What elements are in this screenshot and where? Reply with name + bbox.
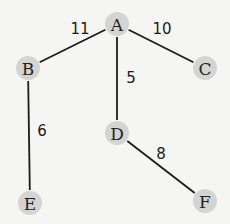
edge-b-e [28, 81, 30, 190]
edge-weight-a-c: 10 [152, 20, 171, 38]
graph-svg: 1110568 ABCDEF [0, 0, 230, 224]
edge-weight-a-d: 5 [126, 69, 136, 87]
edges-group [28, 30, 195, 193]
node-d: D [105, 121, 129, 145]
node-a: A [105, 12, 129, 36]
node-label: A [110, 15, 124, 35]
edge-weight-a-b: 11 [70, 20, 89, 38]
node-f: F [193, 189, 217, 213]
tree-diagram: 1110568 ABCDEF [0, 0, 230, 224]
edge-weight-b-e: 6 [37, 122, 47, 140]
edge-weight-d-f: 8 [156, 145, 166, 163]
node-e: E [18, 191, 42, 215]
node-b: B [16, 56, 40, 80]
node-label: E [24, 194, 36, 214]
node-label: C [198, 59, 211, 79]
node-c: C [193, 56, 217, 80]
node-label: D [110, 124, 124, 144]
node-label: F [199, 192, 211, 212]
node-label: B [22, 59, 35, 79]
